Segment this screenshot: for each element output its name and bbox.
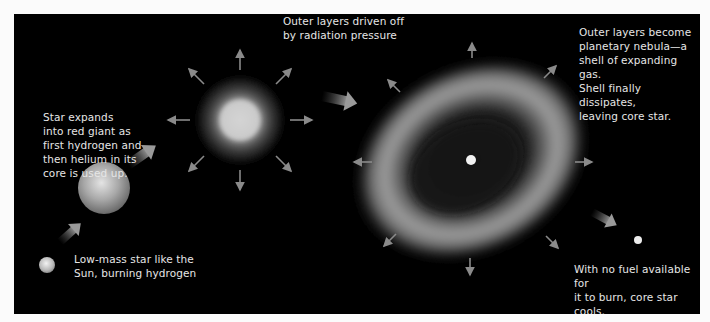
caption-red-giant: Star expands into red giant as first hyd… [43, 110, 142, 180]
caption-sun: Low-mass star like the Sun, burning hydr… [74, 252, 196, 280]
arrow-nebula-to-white-dwarf [588, 205, 620, 232]
diagram-panel: Low-mass star like the Sun, burning hydr… [14, 14, 700, 314]
expanding-star [192, 72, 288, 168]
white-dwarf-star [634, 236, 642, 244]
nebula-core-star [466, 155, 476, 165]
caption-white-dwarf: With no fuel available for it to burn, c… [574, 262, 700, 314]
caption-planetary-nebula: Outer layers become planetary nebula—a s… [579, 25, 700, 123]
arrow-sun-to-giant [55, 217, 87, 248]
caption-outer-layers: Outer layers driven off by radiation pre… [283, 14, 404, 42]
sun-star [39, 257, 55, 273]
arrow-expanding-to-nebula [320, 86, 359, 113]
